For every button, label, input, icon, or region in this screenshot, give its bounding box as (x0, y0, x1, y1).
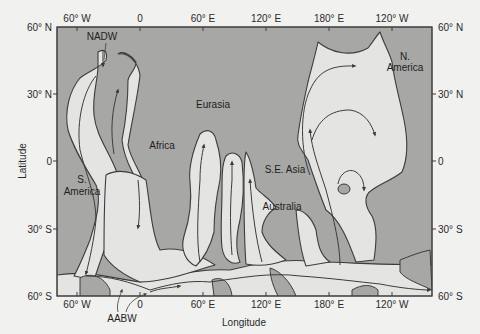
right-tick: 30° N (438, 89, 463, 100)
left-tick: 0 (46, 156, 52, 167)
bottom-tick: 0 (137, 299, 143, 310)
y-axis-label: Latitude (17, 143, 28, 179)
top-tick: 120° W (376, 13, 409, 24)
nadw-label: NADW (87, 31, 118, 42)
s-america-label-1: S. (77, 174, 86, 185)
bottom-tick: 120° E (251, 299, 281, 310)
top-tick: 180° E (314, 13, 344, 24)
right-tick: 30° S (438, 224, 463, 235)
se-asia-label: S.E. Asia (265, 164, 306, 175)
left-axis-ticks: 60° N 30° N 0 30° S 60° S (27, 22, 53, 302)
top-tick: 60° E (191, 13, 216, 24)
right-tick: 60° S (438, 291, 463, 302)
australia-label: Australia (263, 201, 302, 212)
bottom-tick: 180° E (314, 299, 344, 310)
top-tick: 60° W (63, 13, 91, 24)
pacific-island (338, 184, 350, 194)
bottom-tick: 60° E (191, 299, 216, 310)
map-frame (53, 27, 436, 296)
left-tick: 60° S (27, 291, 52, 302)
left-tick: 30° N (27, 89, 52, 100)
x-axis-label: Longitude (222, 317, 266, 328)
bottom-tick: 120° W (376, 299, 409, 310)
top-tick: 0 (137, 13, 143, 24)
africa-label: Africa (149, 140, 175, 151)
top-axis-ticks: 60° W 0 60° E 120° E 180° E 120° W (63, 13, 409, 24)
aabw-label: AABW (107, 313, 137, 324)
n-america-label-1: N. (400, 51, 410, 62)
left-tick: 30° S (27, 224, 52, 235)
eurasia-label: Eurasia (196, 99, 230, 110)
n-america-label-2: America (387, 62, 424, 73)
bottom-tick: 60° W (63, 299, 91, 310)
right-axis-ticks: 60° N 30° N 0 30° S 60° S (438, 22, 463, 302)
bottom-axis-ticks: 60° W 0 60° E 120° E 180° E 120° W (63, 299, 409, 310)
right-tick: 0 (438, 156, 444, 167)
right-tick: 60° N (438, 22, 463, 33)
top-tick: 120° E (251, 13, 281, 24)
deep-water-circulation-map: 60° W 0 60° E 120° E 180° E 120° W 60° W… (0, 0, 480, 334)
left-tick: 60° N (27, 22, 52, 33)
s-america-label-2: America (64, 186, 101, 197)
